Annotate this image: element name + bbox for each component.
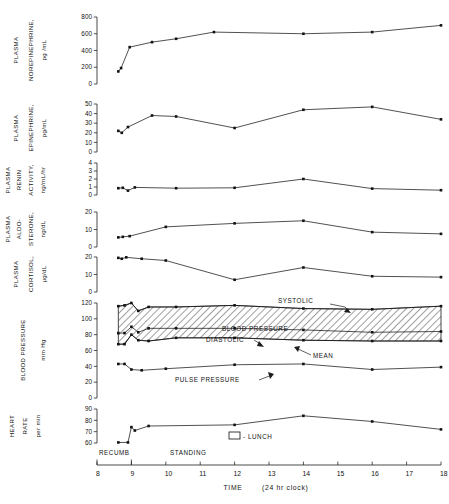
lunch-legend-label: - LUNCH <box>243 433 272 440</box>
pulse-pressure-annotation: PULSE PRESSURE <box>175 376 240 383</box>
plasma-cortisol-ytick: 10 <box>85 271 93 278</box>
plasma-aldosterone-axis-label: STERONE, <box>27 212 34 246</box>
plasma-renin-activity-axis-label: PLASMA <box>4 166 11 193</box>
x-axis-units: (24 hr clock) <box>262 484 309 492</box>
plasma-aldosterone-ytick: 0 <box>88 243 92 250</box>
x-axis-tick: 17 <box>406 470 414 477</box>
plasma-epinephrine-axis: 01020304050 <box>85 100 97 155</box>
plasma-norepinephrine-ytick: 400 <box>81 47 92 54</box>
figure-canvas: 0200400600800PLASMANOREPINEPHRINE,pg /mL… <box>0 0 449 504</box>
pulse-pressure-series <box>117 363 442 372</box>
plasma-epinephrine-ytick: 0 <box>88 148 92 155</box>
plasma-aldosterone-ytick: 20 <box>85 208 93 215</box>
plasma-epinephrine-ytick: 40 <box>85 110 93 117</box>
x-axis-tick: 9 <box>130 470 134 477</box>
plasma-aldosterone-axis-label: ng/dL <box>39 220 46 237</box>
x-axis-tick: 14 <box>302 470 310 477</box>
blood-pressure-ytick: 20 <box>85 378 93 385</box>
plasma-renin-activity-ytick: 2 <box>88 175 92 182</box>
plasma-epinephrine-axis-label: PLASMA <box>12 114 19 141</box>
plasma-norepinephrine-ytick: 0 <box>88 80 92 87</box>
heart-rate-axis-label: HEART <box>8 415 15 437</box>
plasma-norepinephrine-axis-label: PLASMA <box>12 36 19 63</box>
blood-pressure-ytick: 100 <box>81 315 92 322</box>
plasma-cortisol-ytick: 20 <box>85 253 93 260</box>
mean-annotation: MEAN <box>313 352 333 359</box>
blood-pressure-ytick: 80 <box>85 331 93 338</box>
plasma-aldosterone-ytick: 10 <box>85 226 93 233</box>
blood-pressure-annotation: BLOOD PRESSURE <box>222 325 288 332</box>
physiology-time-series-figure: 0200400600800PLASMANOREPINEPHRINE,pg /mL… <box>0 0 449 504</box>
plasma-renin-activity-axis: 01234 <box>88 159 97 198</box>
blood-pressure-ytick: 120 <box>81 299 92 306</box>
plasma-epinephrine-series <box>117 106 442 135</box>
heart-rate-ytick: 70 <box>85 428 93 435</box>
x-axis-tick: 8 <box>96 470 100 477</box>
plasma-renin-activity-axis-label: ACTIVITY, <box>27 164 34 195</box>
plasma-norepinephrine-axis: 0200400600800 <box>81 13 97 87</box>
x-axis-title: TIME <box>223 484 242 491</box>
blood-pressure-ytick: 0 <box>88 394 92 401</box>
x-axis-tick: 11 <box>199 470 206 477</box>
plasma-norepinephrine-ytick: 800 <box>81 13 92 20</box>
x-axis-tick: 10 <box>165 470 173 477</box>
plasma-epinephrine-ytick: 10 <box>85 139 93 146</box>
plasma-aldosterone-series <box>117 219 442 238</box>
blood-pressure-axis-label: mm Hg <box>39 339 46 360</box>
plasma-renin-activity-ytick: 4 <box>88 159 92 166</box>
plasma-norepinephrine-series <box>117 24 442 73</box>
plasma-aldosterone-axis-label: PLASMA <box>4 215 11 242</box>
heart-rate-ytick: 80 <box>85 417 93 424</box>
blood-pressure-axis-label: BLOOD PRESSURE <box>19 319 26 380</box>
heart-rate-axis-label: RATE <box>21 417 28 434</box>
plasma-renin-activity-axis-label: ng/mL/hr <box>39 167 46 194</box>
x-axis-tick: 16 <box>371 470 379 477</box>
plasma-renin-activity-ytick: 3 <box>88 167 92 174</box>
heart-rate-axis: 60708090 <box>85 405 97 446</box>
heart-rate-series <box>117 415 442 444</box>
plasma-norepinephrine-ytick: 200 <box>81 63 92 70</box>
plasma-renin-activity-axis-label: RENIN <box>15 170 22 191</box>
plasma-aldosterone-axis-label: ALDO- <box>15 219 22 239</box>
plasma-cortisol-axis-label: µg/dL <box>40 265 47 282</box>
blood-pressure-ytick: 40 <box>85 363 93 370</box>
plasma-epinephrine-ytick: 20 <box>85 129 93 136</box>
plasma-epinephrine-ytick: 30 <box>85 119 93 126</box>
lunch-legend-symbol <box>229 432 240 439</box>
standing-annotation: STANDING <box>170 449 206 456</box>
plasma-cortisol-axis-label: CORTISOL, <box>27 256 34 292</box>
blood-pressure-axis: 020406080100120 <box>81 299 97 401</box>
recumbent-annotation: RECUMB <box>99 449 130 456</box>
x-axis-tick: 18 <box>440 470 448 477</box>
plasma-epinephrine-axis-label: pg/mL <box>40 118 47 137</box>
x-axis-tick: 15 <box>337 470 345 477</box>
plasma-norepinephrine-axis-label: pg /mL <box>40 39 47 60</box>
plasma-renin-activity-ytick: 0 <box>88 191 92 198</box>
blood-pressure-band <box>118 303 441 344</box>
plasma-cortisol-series <box>117 256 442 281</box>
x-axis-tick: 12 <box>234 470 242 477</box>
plasma-cortisol-axis-label: PLASMA <box>12 260 19 287</box>
x-axis-tick: 13 <box>268 470 276 477</box>
diastolic-annotation: DIASTOLIC <box>206 336 244 343</box>
plasma-renin-activity-ytick: 1 <box>88 183 92 190</box>
plasma-norepinephrine-axis-label: NOREPINEPHRINE, <box>27 19 34 81</box>
plasma-aldosterone-axis: 01020 <box>85 208 97 250</box>
heart-rate-axis-label: per min <box>34 415 41 438</box>
systolic-annotation: SYSTOLIC <box>278 297 313 304</box>
plasma-epinephrine-axis-label: EPINEPHRINE, <box>27 104 34 151</box>
plasma-norepinephrine-ytick: 600 <box>81 30 92 37</box>
heart-rate-ytick: 60 <box>85 439 93 446</box>
plasma-renin-activity-series <box>117 178 442 192</box>
plasma-epinephrine-ytick: 50 <box>85 100 93 107</box>
plasma-cortisol-ytick: 0 <box>88 288 92 295</box>
plasma-cortisol-axis: 01020 <box>85 253 97 295</box>
blood-pressure-ytick: 60 <box>85 347 93 354</box>
heart-rate-ytick: 90 <box>85 405 93 412</box>
